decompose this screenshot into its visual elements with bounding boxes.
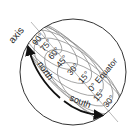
lat-label-equator: 0° Equator (86, 56, 120, 93)
globe-diagram: axis 90° 75° 60° 45° 30° 15° 0° Equator … (0, 0, 135, 134)
axis-label: axis (6, 25, 26, 46)
